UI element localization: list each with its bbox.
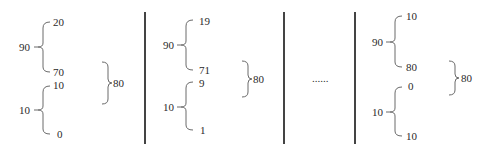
lower-brace-icon — [386, 87, 402, 136]
upper-brace-icon — [177, 20, 193, 70]
outer-brace-icon — [449, 61, 459, 95]
upper-group-bottom-value: 70 — [53, 67, 64, 78]
lower-group-top-value: 10 — [53, 80, 64, 91]
divider-line — [144, 12, 146, 144]
divider-line — [354, 12, 356, 144]
outer-group-label: 80 — [253, 74, 264, 85]
upper-group-label: 90 — [163, 40, 174, 51]
upper-group-top-value: 19 — [199, 16, 210, 27]
outer-brace-icon — [242, 61, 252, 97]
upper-group-bottom-value: 80 — [406, 62, 417, 73]
ellipsis-text: ...... — [312, 73, 329, 84]
upper-group-bottom-value: 71 — [199, 65, 210, 76]
upper-brace-icon — [34, 22, 50, 72]
lower-group-bottom-value: 0 — [57, 129, 63, 140]
upper-group-top-value: 20 — [53, 17, 64, 28]
outer-group-label: 80 — [461, 73, 472, 84]
lower-group-bottom-value: 1 — [200, 125, 206, 136]
lower-brace-icon — [177, 82, 193, 130]
divider-line — [283, 12, 285, 144]
lower-group-label: 10 — [372, 107, 383, 118]
upper-group-label: 90 — [19, 42, 30, 53]
lower-group-bottom-value: 10 — [406, 131, 417, 142]
upper-group-label: 90 — [372, 37, 383, 48]
upper-brace-icon — [386, 16, 402, 67]
lower-group-top-value: 0 — [408, 81, 414, 92]
upper-group-top-value: 10 — [406, 11, 417, 22]
outer-brace-icon — [102, 62, 112, 104]
lower-group-top-value: 9 — [199, 78, 205, 89]
outer-group-label: 80 — [113, 78, 124, 89]
lower-group-label: 10 — [163, 102, 174, 113]
lower-brace-icon — [34, 86, 50, 134]
lower-group-label: 10 — [19, 105, 30, 116]
